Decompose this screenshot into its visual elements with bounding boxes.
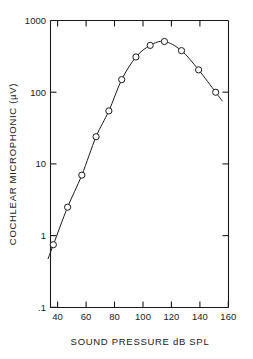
data-point-marker xyxy=(79,172,85,178)
data-point-marker xyxy=(50,242,56,248)
x-tick-label-80: 80 xyxy=(109,311,120,322)
x-axis-title: SOUND PRESSURE dB SPL xyxy=(71,336,210,347)
y-tick-label-10: 10 xyxy=(35,158,46,169)
y-tick-label-1000: 1000 xyxy=(25,15,46,26)
y-tick-label-0.1: .1 xyxy=(38,302,46,313)
x-tick-label-120: 120 xyxy=(163,311,179,322)
y-tick-label-1: 1 xyxy=(41,230,46,241)
x-tick-label-160: 160 xyxy=(220,311,236,322)
x-tick-label-140: 140 xyxy=(192,311,208,322)
data-point-marker xyxy=(178,48,184,54)
cochlear-microphonic-plot: 1000 100 10 1 .1 40 60 80 100 120 140 16… xyxy=(0,0,253,359)
y-tick-label-100: 100 xyxy=(30,87,46,98)
data-point-marker xyxy=(64,204,70,210)
data-series-layer xyxy=(48,38,223,259)
data-point-marker xyxy=(213,89,219,95)
x-axis-ticks xyxy=(58,302,229,308)
data-point-marker xyxy=(93,134,99,140)
y-axis-ticks xyxy=(51,21,57,308)
x-tick-label-40: 40 xyxy=(52,311,63,322)
data-point-marker xyxy=(161,38,167,44)
data-point-marker xyxy=(106,108,112,114)
chart-figure: 1000 100 10 1 .1 40 60 80 100 120 140 16… xyxy=(0,0,253,359)
x-axis-ticks-top xyxy=(58,21,200,27)
x-tick-label-100: 100 xyxy=(135,311,151,322)
data-point-marker xyxy=(147,42,153,48)
data-curve xyxy=(48,41,223,259)
x-tick-label-60: 60 xyxy=(81,311,92,322)
data-point-marker xyxy=(196,67,202,73)
data-point-marker xyxy=(119,77,125,83)
data-point-marker xyxy=(133,54,139,60)
axis-spines xyxy=(51,21,229,308)
y-axis-title: COCHLEAR MICROPHONIC (µV) xyxy=(7,83,18,245)
y-axis-ticks-right xyxy=(223,92,229,235)
